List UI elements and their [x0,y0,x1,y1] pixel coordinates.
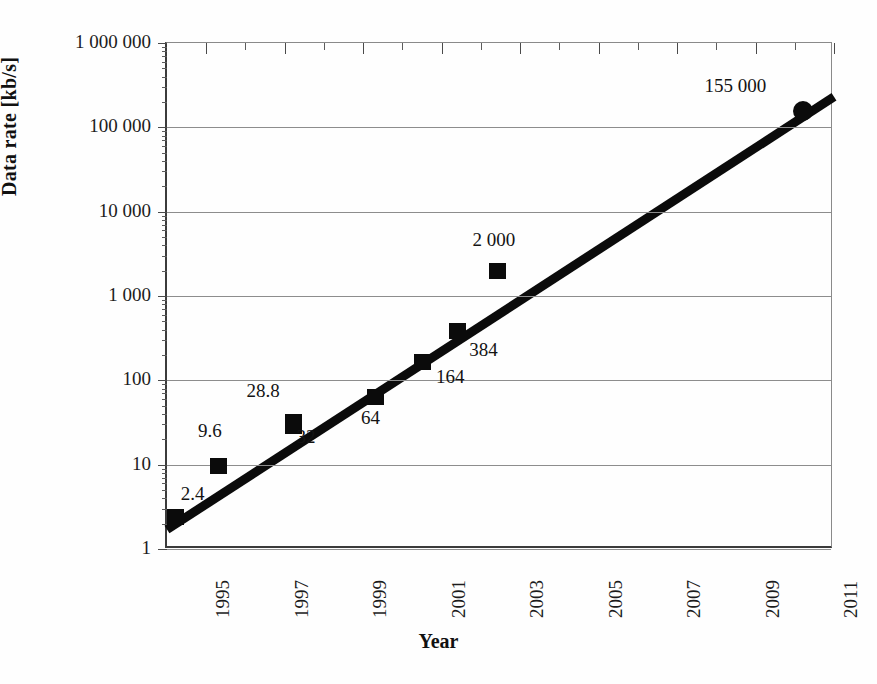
x-axis-minor-tick [481,43,482,50]
y-axis-tick-label: 1 [0,538,151,557]
y-axis-minor-tick [162,355,167,356]
x-axis-tick-label: 2007 [684,580,703,618]
y-axis-tick [158,296,167,297]
y-axis-tick-label: 100 [0,369,151,388]
y-axis-minor-tick [162,406,167,407]
y-axis-minor-tick [162,51,167,52]
x-axis-tick-label: 1995 [213,580,232,618]
data-point-label: 9.6 [198,421,222,440]
x-axis-tick [520,43,521,54]
y-axis-minor-tick [162,186,167,187]
gridline-horizontal [167,296,831,297]
y-axis-tick-label: 100 000 [0,116,151,135]
y-axis-minor-tick [162,389,167,390]
y-axis-minor-tick [162,414,167,415]
plot-area [165,42,832,548]
y-axis-title: Data rate [kb/s] [0,0,21,196]
x-axis-tick-label: 1997 [292,580,311,618]
y-axis-minor-tick [162,146,167,147]
y-axis-minor-tick [162,102,167,103]
y-axis-minor-tick [162,237,167,238]
y-axis-minor-tick [162,490,167,491]
y-axis-minor-tick [162,478,167,479]
y-axis-minor-tick [162,498,167,499]
gridline-horizontal [167,549,831,550]
y-axis-minor-tick [162,225,167,226]
y-axis-tick [158,380,167,381]
data-point-marker [414,354,431,370]
x-axis-tick [834,43,835,54]
y-axis-tick [158,549,167,550]
data-point-marker [793,101,813,121]
y-axis-tick [158,212,167,213]
x-axis-tick [363,43,364,54]
y-axis-minor-tick [162,62,167,63]
y-axis-minor-tick [162,140,167,141]
y-axis-minor-tick [162,399,167,400]
y-axis-minor-tick [162,309,167,310]
data-point-label: 155 000 [705,76,767,95]
y-axis-minor-tick [162,321,167,322]
x-axis-minor-tick [559,43,560,50]
x-axis-title: Year [0,630,877,653]
data-point-label: 384 [469,340,498,359]
y-axis-minor-tick [162,131,167,132]
y-axis-minor-tick [162,315,167,316]
y-axis-minor-tick [162,271,167,272]
x-axis-minor-tick [638,43,639,50]
data-point-marker [210,458,227,474]
x-axis-tick-label: 2005 [606,580,625,618]
y-axis-minor-tick [162,171,167,172]
data-point-marker [489,263,506,279]
y-axis-minor-tick [162,216,167,217]
x-axis-tick [442,43,443,54]
y-axis-minor-tick [162,136,167,137]
y-axis-minor-tick [162,153,167,154]
data-point-marker [449,323,466,339]
y-axis-minor-tick [162,483,167,484]
y-axis-minor-tick [162,87,167,88]
data-point-label: 28.8 [247,381,280,400]
y-axis-minor-tick [162,77,167,78]
data-point-marker [167,509,184,525]
data-point-label: 64 [361,408,380,427]
x-axis-tick-label: 2011 [841,581,860,618]
x-axis-minor-tick [795,43,796,50]
y-axis-tick-label: 1 000 000 [0,32,151,51]
y-axis-minor-tick [162,424,167,425]
y-axis-tick [158,43,167,44]
data-point-label: 32 [297,427,316,446]
x-axis-minor-tick [402,43,403,50]
y-axis-minor-tick [162,47,167,48]
x-axis-minor-tick [324,43,325,50]
y-axis-tick-label: 10 000 [0,201,151,220]
y-axis-minor-tick [162,340,167,341]
data-point-marker [367,389,384,405]
gridline-horizontal [167,212,831,213]
x-axis-tick-label: 2003 [527,580,546,618]
y-axis-minor-tick [162,304,167,305]
y-axis-tick [158,127,167,128]
y-axis-minor-tick [162,161,167,162]
data-point-label: 2.4 [181,484,205,503]
y-axis-minor-tick [162,230,167,231]
y-axis-minor-tick [162,469,167,470]
data-point-label: 164 [436,367,465,386]
y-axis-minor-tick [162,220,167,221]
data-point-label: 2 000 [473,230,516,249]
x-axis-tick-label: 2009 [763,580,782,618]
y-axis-minor-tick [162,330,167,331]
x-axis-tick-label: 1999 [370,580,389,618]
x-axis-tick [756,43,757,54]
gridline-horizontal [167,127,831,128]
x-axis-minor-tick [716,43,717,50]
y-axis-minor-tick [162,300,167,301]
y-axis-minor-tick [162,68,167,69]
figure-canvas: Data rate [kb/s] Year 1 000 000100 00010… [0,0,877,684]
y-axis-minor-tick [162,393,167,394]
gridline-horizontal [167,465,831,466]
y-axis-tick [158,465,167,466]
y-axis-minor-tick [162,56,167,57]
x-axis-tick [206,43,207,54]
y-axis-minor-tick [162,473,167,474]
